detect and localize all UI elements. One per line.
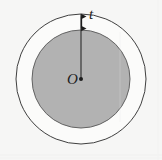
annulus-figure: t O (0, 0, 162, 160)
thickness-label: t (89, 7, 93, 22)
annulus-diagram-canvas (0, 0, 162, 160)
center-label: O (67, 72, 78, 87)
center-dot (79, 77, 83, 81)
